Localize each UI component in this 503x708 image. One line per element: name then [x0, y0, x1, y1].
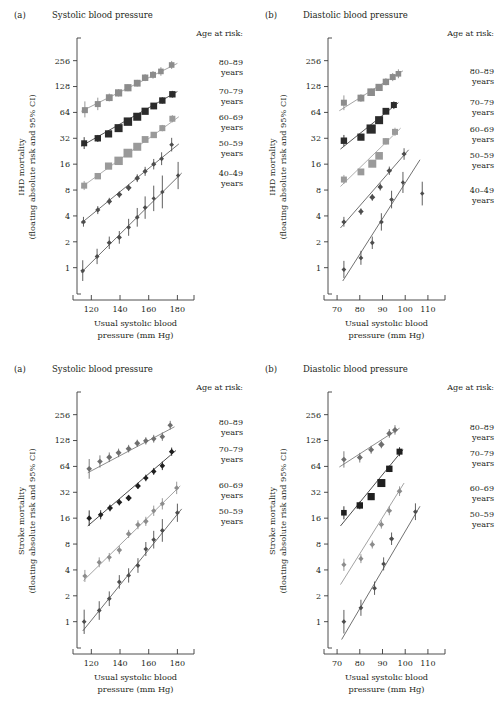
data-point — [397, 449, 403, 455]
y-tick-label: 64 — [311, 462, 321, 471]
y-axis-title-line2: (floating absolute risk and 95% CI) — [278, 448, 288, 593]
legend-years-label: years — [220, 517, 243, 526]
y-axis-title-line2: (floating absolute risk and 95% CI) — [278, 94, 288, 239]
data-point — [401, 151, 406, 156]
y-axis-title-line1: IHD mortality — [16, 138, 26, 196]
series-2 — [81, 91, 177, 149]
y-tick-label: 2 — [65, 238, 70, 247]
data-point — [126, 573, 131, 578]
x-tick-label: 70 — [332, 305, 342, 314]
data-point — [367, 88, 375, 96]
y-axis-title-line1: Stroke mortality — [267, 487, 277, 555]
legend-age-range: 70–79 — [219, 445, 243, 454]
data-point — [159, 97, 165, 103]
data-point — [135, 522, 141, 528]
data-point — [116, 499, 122, 505]
legend-header: Age at risk: — [446, 383, 494, 392]
data-point — [124, 117, 132, 125]
data-point — [341, 100, 347, 106]
data-point — [390, 74, 396, 80]
data-point — [82, 107, 88, 113]
legend-years-label: years — [220, 179, 243, 188]
data-point — [124, 84, 131, 91]
x-tick-label: 110 — [420, 305, 435, 314]
data-point — [142, 136, 149, 143]
data-point — [413, 509, 418, 514]
legend-years-label: years — [220, 149, 243, 158]
data-point — [175, 510, 180, 515]
legend-age-range: 50–59 — [470, 510, 494, 519]
data-point — [97, 560, 102, 565]
data-point — [133, 143, 141, 151]
data-point — [368, 160, 376, 168]
data-point — [151, 132, 157, 138]
data-point — [391, 102, 397, 108]
y-tick-label: 32 — [311, 134, 321, 143]
panel-top-left: (a) Systolic blood pressure 124816326412… — [0, 0, 251, 354]
chart-svg-top-left: 1248163264128256120140160180Usual systol… — [0, 0, 251, 354]
data-point — [151, 508, 156, 513]
data-point — [341, 138, 347, 144]
legend-years-label: years — [471, 196, 494, 205]
x-tick-label: 140 — [112, 305, 127, 314]
legend-item-4: 50–59years — [219, 139, 243, 158]
fit-line — [340, 128, 400, 186]
legend-age-range: 80–89 — [219, 418, 243, 427]
panel-bottom-left: (a) Systolic blood pressure 124816326412… — [0, 354, 251, 708]
series-3 — [82, 482, 180, 582]
data-point — [115, 124, 123, 132]
legend-years-label: years — [220, 97, 243, 106]
legend-years-label: years — [471, 161, 494, 170]
x-tick-label: 160 — [141, 305, 156, 314]
data-point — [81, 183, 87, 189]
data-point — [126, 446, 132, 452]
data-point — [143, 205, 148, 210]
data-point — [370, 240, 375, 245]
legend-age-range: 50–59 — [219, 507, 243, 516]
data-point — [134, 80, 141, 87]
legend-header: Age at risk: — [195, 383, 243, 392]
x-axis-title-line1: Usual systolic blood — [345, 318, 428, 328]
data-point — [95, 135, 101, 141]
y-tick-label: 128 — [306, 436, 321, 445]
data-point — [82, 619, 87, 624]
data-point — [169, 116, 175, 122]
x-tick-label: 110 — [420, 659, 435, 668]
data-point — [116, 192, 122, 198]
data-point — [125, 495, 131, 501]
data-point — [115, 89, 122, 96]
legend-years-label: years — [471, 459, 494, 468]
y-axis-title-line2: (floating absolute risk and 95% CI) — [27, 94, 37, 239]
data-point — [95, 173, 101, 179]
data-point — [81, 140, 87, 146]
data-point — [392, 129, 398, 135]
x-tick-label: 180 — [170, 659, 185, 668]
y-tick-label: 2 — [65, 592, 70, 601]
y-tick-label: 128 — [306, 82, 321, 91]
data-point — [114, 157, 122, 165]
y-tick-label: 128 — [55, 436, 70, 445]
data-point — [375, 152, 383, 160]
legend-age-range: 40–49 — [470, 186, 494, 195]
chart-svg-bottom-right: 1248163264128256708090100110Usual systol… — [251, 354, 502, 708]
data-point — [383, 138, 389, 144]
data-point — [389, 536, 394, 541]
x-axis-title-line1: Usual systolic blood — [345, 672, 428, 682]
data-point — [357, 134, 364, 141]
data-point — [369, 542, 375, 548]
data-point — [135, 483, 141, 489]
legend-item-3: 60–69years — [470, 484, 494, 503]
x-axis-title-line2: pressure (mm Hg) — [98, 330, 174, 340]
data-point — [126, 225, 131, 230]
legend-header: Age at risk: — [446, 29, 494, 38]
data-point — [143, 519, 149, 525]
data-point — [117, 235, 122, 240]
y-tick-label: 8 — [316, 186, 321, 195]
data-point — [117, 547, 123, 553]
data-point — [357, 502, 363, 508]
x-axis-title-line2: pressure (mm Hg) — [349, 684, 425, 694]
y-tick-label: 64 — [311, 108, 321, 117]
data-point — [383, 108, 390, 115]
x-tick-label: 120 — [84, 305, 99, 314]
legend-years-label: years — [471, 77, 494, 86]
